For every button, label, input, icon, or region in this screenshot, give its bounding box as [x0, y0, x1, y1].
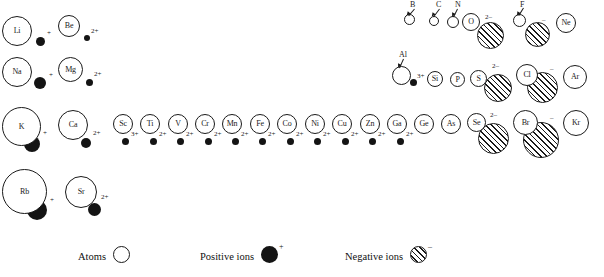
charge-label-se: 2– [490, 112, 497, 119]
atom-c [429, 16, 439, 26]
atom-al [392, 66, 411, 85]
element-symbol-cu: Cu [338, 120, 347, 128]
atom-k: K [2, 107, 41, 146]
atom-as: As [441, 114, 461, 134]
atom-p: P [450, 72, 465, 87]
atom-sr: Sr [65, 176, 97, 208]
element-symbol-ti: Ti [147, 120, 153, 128]
charge-label-mn: 2+ [241, 131, 248, 138]
atom-se: Se [467, 113, 486, 132]
charge-label-br: – [550, 115, 554, 122]
element-symbol-cl: Cl [523, 71, 530, 79]
atom-mg: Mg [58, 57, 83, 82]
element-symbol-kr: Kr [572, 119, 580, 127]
element-symbol-ni: Ni [311, 120, 319, 128]
atom-b [404, 14, 415, 25]
atom-ge: Ge [414, 114, 434, 134]
charge-label-co: 2+ [296, 131, 303, 138]
element-symbol-mn: Mn [227, 120, 238, 128]
element-symbol-na: Na [13, 68, 22, 76]
ion-be [84, 35, 90, 41]
ion-co [287, 138, 294, 145]
atom-o: O [462, 13, 480, 31]
legend-swatch-positive-ion: + [261, 246, 278, 267]
ion-v [177, 138, 184, 145]
ion-cu [342, 138, 349, 145]
atom-ga: Ga [387, 114, 407, 134]
atom-ni: Ni [305, 114, 325, 134]
legend-charge-negative: – [428, 242, 432, 251]
element-symbol-mg: Mg [65, 66, 76, 74]
element-symbol-fe: Fe [256, 120, 264, 128]
charge-label-f: – [542, 17, 546, 24]
legend-swatch-atom [113, 246, 130, 267]
charge-label-na: + [49, 72, 53, 79]
ion-mg [86, 79, 93, 86]
element-symbol-zn: Zn [366, 120, 375, 128]
charge-label-ca: 2+ [93, 130, 100, 137]
atom-cl: Cl [516, 64, 538, 86]
atom-kr: Kr [563, 110, 589, 136]
element-symbol-n: N [455, 1, 461, 9]
ion-mn [232, 138, 239, 145]
atom-ar: Ar [563, 65, 587, 89]
legend-swatch-negative-ion: – [410, 246, 427, 267]
charge-label-k: + [43, 130, 47, 137]
ion-s [484, 74, 512, 102]
element-symbol-k: K [19, 123, 25, 131]
charge-label-s: 2– [492, 63, 499, 70]
element-symbol-p: P [455, 76, 459, 84]
charge-label-ga: 2+ [406, 131, 413, 138]
charge-label-cu: 2+ [351, 131, 358, 138]
element-symbol-be: Be [65, 22, 74, 30]
charge-label-rb: + [50, 197, 54, 204]
atom-ne: Ne [556, 13, 576, 33]
ion-li [36, 37, 45, 46]
legend-label-atoms: Atoms [78, 251, 106, 262]
ion-na [34, 77, 46, 89]
legend-label-positive-ions: Positive ions [200, 251, 254, 262]
element-symbol-ca: Ca [69, 121, 78, 129]
element-symbol-ge: Ge [420, 120, 429, 128]
atom-cr: Cr [195, 114, 215, 134]
element-symbol-br: Br [522, 119, 530, 127]
atom-s: S [470, 70, 487, 87]
charge-label-sc: 3+ [131, 131, 138, 138]
element-symbol-sc: Sc [119, 120, 127, 128]
charge-label-mg: 2+ [94, 71, 101, 78]
element-symbol-ar: Ar [571, 73, 579, 81]
element-symbol-cr: Cr [201, 120, 209, 128]
charge-label-cl: – [550, 66, 554, 73]
atom-ti: Ti [140, 114, 160, 134]
ion-ni [314, 138, 321, 145]
charge-label-be: 2+ [91, 28, 98, 35]
element-symbol-o: O [468, 18, 474, 26]
atom-br: Br [513, 110, 538, 135]
ion-fe [259, 138, 266, 145]
element-symbol-li: Li [14, 27, 21, 35]
element-symbol-sr: Sr [78, 188, 85, 196]
element-symbol-se: Se [473, 119, 481, 127]
atom-co: Co [277, 114, 297, 134]
charge-label-li: + [47, 30, 51, 37]
ion-f [525, 22, 550, 47]
legend-label-negative-ions: Negative ions [345, 251, 403, 262]
atom-ca: Ca [58, 110, 88, 140]
atom-mn: Mn [222, 114, 242, 134]
element-symbol-s: S [476, 75, 480, 83]
periodic-radii-diagram: Li+Be2+BCNO2–F–NeNa+Mg2+Al3+SiPS2–Cl–ArK… [0, 0, 604, 277]
element-symbol-ga: Ga [393, 120, 402, 128]
ion-ca [81, 138, 91, 148]
atom-f [513, 14, 526, 27]
charge-label-fe: 2+ [268, 131, 275, 138]
legend-item-negative-ions: Negative ions – [345, 246, 427, 267]
atom-si: Si [427, 71, 443, 87]
ion-sc [122, 138, 129, 145]
legend-item-atoms: Atoms [78, 246, 130, 267]
element-symbol-ne: Ne [562, 19, 571, 27]
atom-cu: Cu [332, 114, 352, 134]
atom-zn: Zn [360, 114, 380, 134]
ion-ti [150, 138, 157, 145]
element-symbol-rb: Rb [20, 188, 29, 196]
element-symbol-si: Si [432, 75, 438, 83]
